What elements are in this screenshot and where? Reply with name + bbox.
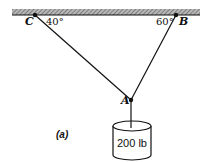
figure-caption: (a) — [56, 129, 69, 140]
node-b-label: B — [178, 15, 188, 28]
node-a-label: A — [120, 94, 130, 107]
cylinder-top — [113, 121, 151, 131]
node-c-label: C — [25, 15, 34, 28]
diagram-canvas: C B A 40° 60° 200 lb (a) — [0, 0, 210, 162]
cable-ba — [131, 15, 176, 100]
ceiling-support — [12, 9, 200, 15]
cable-ca — [35, 15, 131, 100]
angle-c-label: 40° — [46, 16, 64, 27]
ceiling-hatching — [12, 9, 200, 15]
weight-cylinder: 200 lb — [113, 121, 151, 160]
angle-b-label: 60° — [156, 16, 174, 27]
node-b-point — [174, 13, 178, 17]
weight-label: 200 lb — [117, 137, 147, 149]
